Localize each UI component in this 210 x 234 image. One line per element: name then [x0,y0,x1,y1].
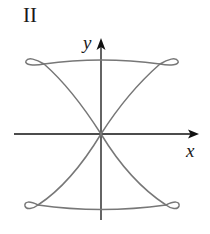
x-axis-label: x [186,140,194,162]
curve-loop-lower-left [25,202,38,208]
curve-bottom-edge [38,205,166,210]
curve-branch-upper-left [44,64,101,134]
curve-loop-upper-right [160,59,178,65]
curve-branch-lower-left [38,134,101,205]
curve-loop-lower-right [166,202,179,208]
curve-branch-lower-right [101,134,166,205]
y-axis-label: y [83,32,91,54]
curve-loop-upper-left [26,59,44,65]
curve-branch-upper-right [101,64,160,134]
curve-top-edge [44,60,160,64]
parametric-curve-plot [0,0,210,234]
